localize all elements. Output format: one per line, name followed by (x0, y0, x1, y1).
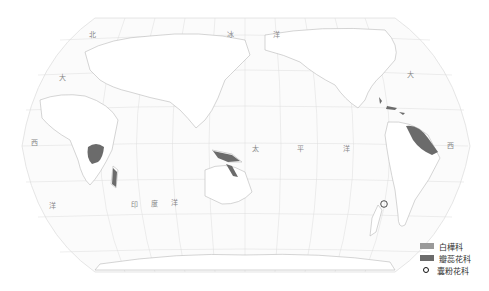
world-map (0, 0, 489, 291)
ocean-label-indian-3: 洋 (171, 197, 179, 207)
ocean-label-atlantic-e-2: 西 (447, 140, 455, 150)
ocean-label-pacific-3: 洋 (343, 143, 351, 153)
ocean-label-arctic-1: 北 (89, 29, 97, 39)
circle-marker-icon (423, 267, 429, 273)
legend-label: 瓣蕊花科 (439, 253, 471, 264)
legend-label: 白樺科 (439, 241, 463, 252)
ocean-label-atlantic-w-2: 西 (31, 137, 39, 147)
legend-swatch-dark (420, 255, 434, 261)
legend-swatch-light (420, 243, 434, 249)
ocean-label-atlantic-w-3: 洋 (49, 200, 57, 210)
ocean-label-atlantic-e-1: 大 (407, 69, 415, 79)
ocean-label-indian-1: 印 (131, 199, 139, 209)
legend-label: 囊粉花科 (437, 265, 469, 276)
ocean-label-arctic-2: 冰 (227, 29, 235, 39)
legend: 白樺科 瓣蕊花科 囊粉花科 (420, 240, 486, 276)
ocean-label-pacific-2: 平 (297, 143, 305, 153)
legend-item-baileyaceae: 白樺科 (420, 240, 486, 252)
ocean-label-indian-2: 度 (151, 198, 159, 208)
legend-item-circle-family: 囊粉花科 (420, 264, 486, 276)
ocean-label-arctic-3: 洋 (273, 29, 281, 39)
ocean-label-pacific-1: 太 (252, 143, 260, 153)
ocean-label-atlantic-w-1: 大 (59, 72, 67, 82)
legend-item-petrosaviaceae: 瓣蕊花科 (420, 252, 486, 264)
